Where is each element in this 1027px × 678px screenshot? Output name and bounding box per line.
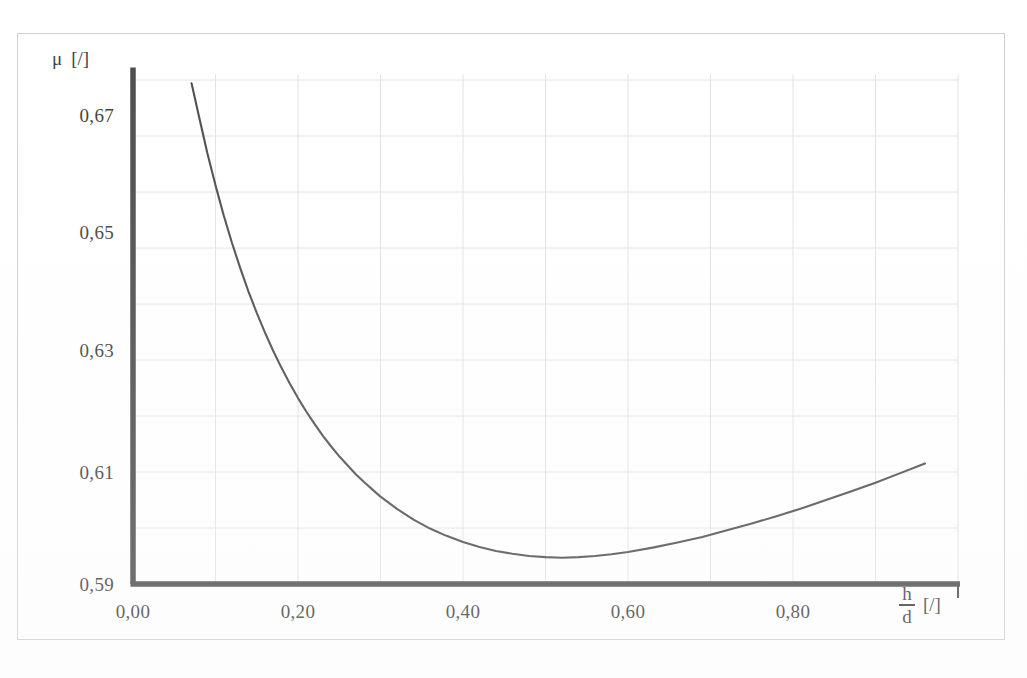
x-tick-label: 0,80 xyxy=(753,601,833,623)
y-axis-title: μ[/] xyxy=(52,48,89,70)
fraction-denominator: d xyxy=(900,607,914,626)
x-tick-label: 0,00 xyxy=(93,601,173,623)
x-tick-label: 0,20 xyxy=(258,601,338,623)
gridlines xyxy=(133,74,958,584)
data-curve xyxy=(192,83,925,557)
series-line-mu xyxy=(192,83,925,557)
fraction-numerator: h xyxy=(900,584,914,603)
y-tick-label: 0,61 xyxy=(44,462,114,484)
y-tick-label: 0,63 xyxy=(44,340,114,362)
y-tick-label: 0,59 xyxy=(44,574,114,596)
plot-canvas xyxy=(0,0,1027,678)
x-axis-title: h d [/] xyxy=(899,584,941,626)
y-tick-label: 0,67 xyxy=(44,105,114,127)
y-axis-unit: [/] xyxy=(71,48,89,69)
y-tick-label: 0,65 xyxy=(44,222,114,244)
x-tick-label: 0,40 xyxy=(423,601,503,623)
x-tick-label: 0,60 xyxy=(588,601,668,623)
x-axis-unit: [/] xyxy=(923,594,941,616)
chart-figure: μ[/] 0,67 0,65 0,63 0,61 0,59 0,00 0,20 … xyxy=(0,0,1027,678)
h-over-d-fraction: h d xyxy=(899,584,915,626)
y-axis-symbol: μ xyxy=(52,48,62,69)
